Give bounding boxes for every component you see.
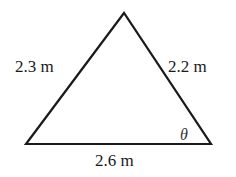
left-side-label: 2.3 m <box>15 57 54 76</box>
angle-theta-label: θ <box>180 126 188 143</box>
triangle-diagram: 2.3 m 2.2 m 2.6 m θ <box>0 0 236 177</box>
right-side-label: 2.2 m <box>168 57 207 76</box>
triangle-shape <box>26 13 211 144</box>
bottom-side-label: 2.6 m <box>95 151 134 170</box>
